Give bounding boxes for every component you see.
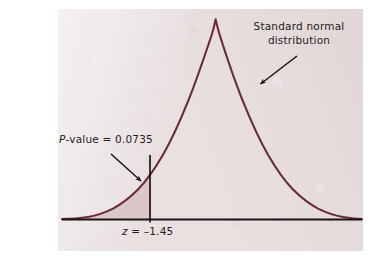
figure-page: Standard normal distribution P-value = 0… [0,0,383,257]
title-line-1: Standard normal [254,20,345,32]
pvalue-label: P-value = 0.0735 [59,133,153,145]
title-arrow [261,56,298,84]
pvalue-value: -value = 0.0735 [66,133,153,145]
z-value-label: z = –1.45 [122,225,173,237]
z-value: = –1.45 [128,225,174,237]
title-line-2: distribution [268,34,330,46]
distribution-title-label: Standard normal distribution [243,19,355,47]
normal-curve [62,19,362,219]
pvalue-arrow [111,154,141,181]
